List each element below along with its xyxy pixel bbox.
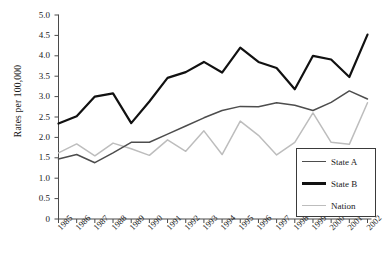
legend-item-state-a: State A [297, 150, 377, 173]
legend-label-nation: Nation [331, 201, 356, 211]
legend-swatch-state-b [302, 182, 326, 184]
legend-swatch-state-a [302, 161, 326, 163]
legend-swatch-nation [302, 205, 326, 207]
legend: State A State B Nation [296, 148, 376, 217]
legend-label-state-a: State A [331, 157, 357, 167]
legend-item-state-b: State B [297, 172, 377, 195]
legend-label-state-b: State B [331, 179, 357, 189]
series-line-state-b [59, 35, 368, 124]
legend-item-nation: Nation [297, 194, 377, 217]
